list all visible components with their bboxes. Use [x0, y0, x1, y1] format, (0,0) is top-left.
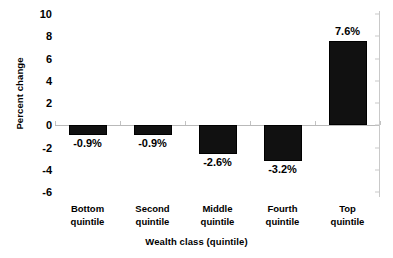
x-axis-tick-mark	[55, 121, 56, 125]
bar	[199, 125, 237, 154]
x-axis-category-label: Top quintile	[331, 203, 365, 228]
y-axis-tick-mark	[375, 80, 380, 81]
y-axis-tick-label: -4	[18, 164, 52, 175]
y-axis-tick-label: -2	[18, 142, 52, 153]
y-axis-tick-mark	[375, 103, 380, 104]
bar	[329, 41, 367, 126]
y-axis-tick-labels: 1086420-2-4-6	[18, 0, 52, 258]
bar-value-label: -2.6%	[203, 157, 232, 168]
x-axis-category-label: Middle quintile	[201, 203, 235, 228]
x-axis-title: Wealth class (quintile)	[0, 236, 393, 247]
y-axis-tick-label: 8	[18, 31, 52, 42]
x-axis-tick-mark	[380, 121, 381, 125]
y-axis-tick-mark	[375, 14, 380, 15]
y-axis-tick-mark	[375, 147, 380, 148]
y-axis-tick-mark	[375, 36, 380, 37]
y-axis-tick-label: -6	[18, 187, 52, 198]
y-axis-tick-mark	[375, 169, 380, 170]
y-axis-tick-label: 4	[18, 75, 52, 86]
bar	[264, 125, 302, 161]
bar	[69, 125, 107, 135]
y-axis-tick-label: 2	[18, 98, 52, 109]
x-axis-category-label: Second quintile	[135, 203, 169, 228]
y-axis-tick-mark	[375, 192, 380, 193]
x-axis-category-label: Fourth quintile	[266, 203, 300, 228]
plot-area: -0.9%Bottom quintile-0.9%Second quintile…	[55, 0, 380, 258]
bar-chart: Percent change 1086420-2-4-6 -0.9%Bottom…	[0, 0, 393, 258]
bar-value-label: 7.6%	[335, 26, 360, 37]
x-axis-tick-mark	[315, 121, 316, 125]
bar	[134, 125, 172, 135]
bar-value-label: -0.9%	[138, 138, 167, 149]
y-axis-tick-label: 0	[18, 120, 52, 131]
y-axis-tick-label: 10	[18, 9, 52, 20]
x-axis-tick-mark	[120, 121, 121, 125]
y-axis-tick-mark	[375, 58, 380, 59]
x-axis-category-label: Bottom quintile	[71, 203, 105, 228]
y-axis-tick-label: 6	[18, 53, 52, 64]
x-axis-tick-mark	[185, 121, 186, 125]
bar-value-label: -3.2%	[268, 164, 297, 175]
bar-value-label: -0.9%	[73, 138, 102, 149]
x-axis-tick-mark	[250, 121, 251, 125]
